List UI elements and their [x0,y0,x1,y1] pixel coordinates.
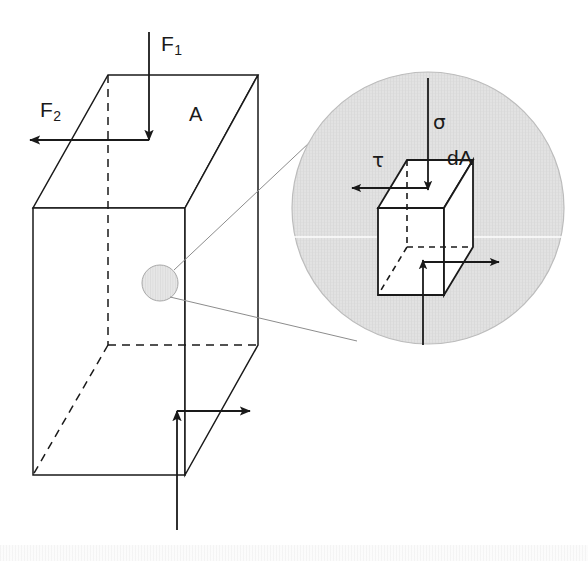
shear-stress-label: τ [372,150,384,170]
force-f2-symbol: F [40,98,53,121]
mechanics-stress-diagram [0,0,588,561]
force-f1-label: F1 [161,33,182,54]
figure-canvas: F1 F2 A σ τ dA [0,0,588,561]
force-f2-label: F2 [40,99,61,120]
force-f2-subscript: 2 [53,108,61,124]
normal-stress-label: σ [433,112,446,132]
force-f1-subscript: 1 [174,42,182,58]
force-f1-symbol: F [161,32,174,55]
scan-artifact-band [0,545,588,561]
differential-area-label: dA [447,147,473,168]
section-marker-circle [142,265,178,301]
element-front-face [378,208,444,295]
area-label: A [189,104,202,124]
